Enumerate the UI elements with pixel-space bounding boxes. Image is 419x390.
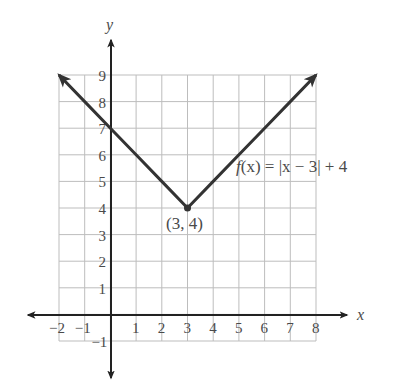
vertex-label: (3, 4): [166, 214, 203, 233]
y-tick-label: 2: [98, 254, 106, 270]
y-tick-label: 3: [98, 228, 106, 244]
x-tick-labels: −2−112345678: [49, 320, 320, 336]
x-axis-label: x: [356, 306, 364, 323]
x-tick-label: 5: [235, 320, 243, 336]
x-tick-label: 8: [312, 320, 320, 336]
y-tick-label: 6: [98, 148, 106, 164]
y-tick-label: −1: [91, 334, 107, 350]
function-label: f(x) = |x − 3| + 4: [236, 157, 348, 176]
x-tick-label: −1: [75, 320, 91, 336]
y-tick-label: 5: [98, 174, 106, 190]
x-tick-label: 4: [209, 320, 217, 336]
y-tick-label: 1: [98, 281, 106, 297]
function-expression: (x) = |x − 3| + 4: [241, 157, 348, 176]
function-graph: x y −2−112345678 −1123456789 (3, 4) f(x)…: [0, 0, 419, 390]
vertex-point: [184, 205, 191, 212]
y-tick-label: 9: [98, 68, 106, 84]
x-tick-label: 7: [286, 320, 294, 336]
x-tick-label: 6: [261, 320, 269, 336]
y-tick-label: 8: [98, 95, 106, 111]
x-tick-label: 3: [184, 320, 192, 336]
y-tick-label: 4: [98, 201, 106, 217]
y-axis-label: y: [104, 16, 114, 34]
x-tick-label: −2: [49, 320, 65, 336]
x-tick-label: 2: [158, 320, 166, 336]
x-tick-label: 1: [132, 320, 140, 336]
